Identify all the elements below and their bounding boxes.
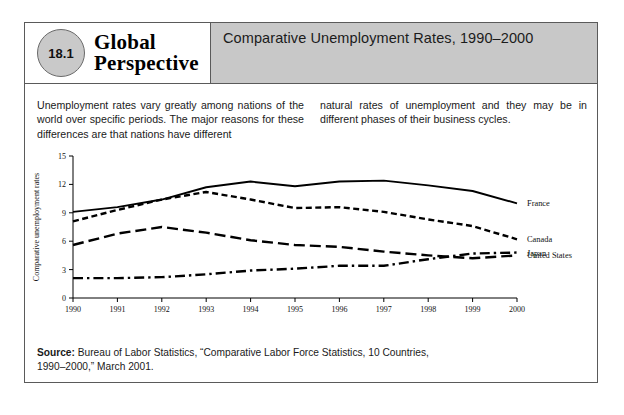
line-chart: 03691215Comparative unemployment rates19… <box>25 146 597 318</box>
x-tick-label: 1998 <box>420 305 436 314</box>
y-tick-label: 15 <box>58 152 66 161</box>
y-tick-label: 9 <box>62 209 66 218</box>
figure-title: Comparative Unemployment Rates, 1990–200… <box>223 30 597 46</box>
title-pane: Comparative Unemployment Rates, 1990–200… <box>211 23 597 83</box>
y-tick-label: 3 <box>62 266 66 275</box>
series-line-france <box>73 181 517 212</box>
x-tick-label: 1999 <box>465 305 481 314</box>
y-tick-label: 12 <box>58 180 66 189</box>
paragraph-left: Unemployment rates vary greatly among na… <box>37 98 304 141</box>
series-line-japan <box>73 253 517 279</box>
global-perspective-figure: 18.1 Global Perspective Comparative Unem… <box>0 0 624 415</box>
chart-svg: 03691215Comparative unemployment rates19… <box>25 146 597 318</box>
series-line-united-states <box>73 227 517 258</box>
x-tick-label: 1993 <box>198 305 214 314</box>
intro-text: Unemployment rates vary greatly among na… <box>37 98 587 141</box>
series-label-united-states: United States <box>527 251 572 260</box>
x-tick-label: 1995 <box>287 305 303 314</box>
source-label: Source: <box>37 347 75 358</box>
source-text: Bureau of Labor Statistics, “Comparative… <box>37 347 429 372</box>
brand-wordmark: Global Perspective <box>94 32 199 74</box>
figure-number-text: 18.1 <box>48 46 73 61</box>
figure-body: Unemployment rates vary greatly among na… <box>25 84 597 384</box>
y-tick-label: 6 <box>62 237 66 246</box>
x-tick-label: 2000 <box>509 305 525 314</box>
x-tick-label: 1991 <box>109 305 125 314</box>
paragraph-right: natural rates of unemployment and they m… <box>320 98 587 141</box>
brand-line-2: Perspective <box>94 53 199 74</box>
y-tick-label: 0 <box>62 294 66 303</box>
series-label-france: France <box>527 199 550 208</box>
series-line-canada <box>73 192 517 239</box>
figure-box: 18.1 Global Perspective Comparative Unem… <box>24 22 598 383</box>
y-axis-title: Comparative unemployment rates <box>32 173 41 281</box>
series-label-canada: Canada <box>527 235 552 244</box>
brand-pane: 18.1 Global Perspective <box>25 23 211 83</box>
brand-line-1: Global <box>94 32 199 53</box>
x-tick-label: 1994 <box>243 305 259 314</box>
source-note: Source: Bureau of Labor Statistics, “Com… <box>37 346 457 374</box>
x-tick-label: 1992 <box>154 305 170 314</box>
x-tick-label: 1990 <box>65 305 81 314</box>
figure-header: 18.1 Global Perspective Comparative Unem… <box>25 23 597 84</box>
figure-number-badge: 18.1 <box>37 29 85 77</box>
x-tick-label: 1996 <box>331 305 347 314</box>
x-tick-label: 1997 <box>376 305 392 314</box>
